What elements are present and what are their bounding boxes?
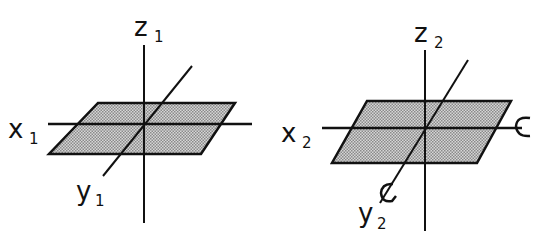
frame-1: z 1 x 1 y 1 — [8, 12, 252, 223]
y2-subscript: 2 — [377, 215, 387, 233]
z1-subscript: 1 — [154, 28, 164, 46]
x1-label: x — [8, 114, 23, 144]
z2-subscript: 2 — [434, 34, 444, 52]
x2-subscript: 2 — [302, 134, 312, 152]
diagram-canvas: z 1 x 1 y 1 z 2 x 2 y 2 — [0, 0, 541, 235]
z2-label: z — [414, 18, 428, 48]
x1-subscript: 1 — [29, 130, 39, 148]
y1-subscript: 1 — [95, 192, 105, 210]
frame-2: z 2 x 2 y 2 — [281, 18, 530, 233]
rotation-arrow-y-icon — [381, 184, 396, 201]
plane-2 — [332, 101, 511, 163]
z1-label: z — [134, 12, 148, 42]
y1-label: y — [76, 176, 91, 206]
x2-label: x — [281, 118, 296, 148]
y2-label: y — [358, 198, 373, 228]
